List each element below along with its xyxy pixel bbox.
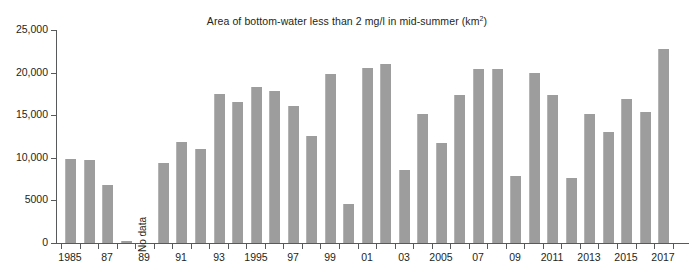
x-axis-tick — [506, 244, 507, 249]
bar-1991[interactable] — [176, 142, 187, 243]
bar-2010[interactable] — [529, 73, 540, 243]
x-axis-tick — [61, 244, 62, 249]
x-axis-tick — [450, 244, 451, 249]
bar-1987[interactable] — [102, 185, 113, 243]
x-axis-tick-label-1997: 97 — [287, 251, 299, 263]
bar-1992[interactable] — [195, 149, 206, 243]
bar-2013[interactable] — [584, 114, 595, 244]
bar-2003[interactable] — [399, 170, 410, 243]
x-axis-tick — [265, 244, 266, 249]
x-axis-tick-label-2011: 2011 — [541, 251, 564, 263]
bar-1999[interactable] — [325, 74, 336, 243]
bar-chart-figure: Area of bottom-water less than 2 mg/l in… — [0, 0, 694, 273]
x-axis-tick — [636, 244, 637, 249]
plot-area — [57, 30, 689, 243]
bar-2017[interactable] — [658, 49, 669, 243]
bar-2008[interactable] — [492, 69, 503, 243]
x-axis-tick — [376, 244, 377, 249]
x-axis-tick — [617, 244, 618, 249]
y-axis-tick-label: 20,000 — [2, 66, 48, 78]
bar-2015[interactable] — [621, 99, 632, 243]
chart-title: Area of bottom-water less than 2 mg/l in… — [0, 15, 694, 27]
x-axis-tick — [172, 244, 173, 249]
bar-2004[interactable] — [417, 114, 428, 243]
x-axis-tick — [432, 244, 433, 249]
bar-2011[interactable] — [547, 95, 558, 243]
x-axis-tick — [98, 244, 99, 249]
bar-2000[interactable] — [343, 204, 354, 243]
x-axis-tick — [561, 244, 562, 249]
bar-2006[interactable] — [454, 95, 465, 243]
bar-1994[interactable] — [232, 102, 243, 243]
x-axis-tick — [358, 244, 359, 249]
y-axis-tick-label: 5000 — [2, 193, 48, 205]
x-axis-tick-label-2005: 2005 — [429, 251, 452, 263]
no-data-annotation: No data — [137, 217, 148, 252]
bar-1996[interactable] — [269, 91, 280, 244]
bar-1985[interactable] — [65, 159, 76, 243]
x-axis-tick-label-2003: 03 — [398, 251, 410, 263]
bar-1986[interactable] — [84, 160, 95, 243]
x-axis-tick — [246, 244, 247, 249]
bar-2016[interactable] — [640, 112, 651, 243]
y-axis-tick-label: 15,000 — [2, 108, 48, 120]
y-axis-tick-label: 10,000 — [2, 151, 48, 163]
x-axis-tick — [673, 244, 674, 249]
x-axis-tick — [543, 244, 544, 249]
bar-2009[interactable] — [510, 176, 521, 243]
x-axis-tick — [339, 244, 340, 249]
x-axis-tick — [469, 244, 470, 249]
x-axis-tick — [320, 244, 321, 249]
x-axis-tick-label-2001: 01 — [361, 251, 373, 263]
x-axis-tick — [598, 244, 599, 249]
x-axis-tick — [228, 244, 229, 249]
x-axis-tick — [413, 244, 414, 249]
x-axis-tick-label-1993: 93 — [213, 251, 225, 263]
y-axis-tick-label: 0 — [2, 236, 48, 248]
x-axis-tick — [191, 244, 192, 249]
bar-2005[interactable] — [436, 143, 447, 243]
x-axis-tick-label-1991: 91 — [175, 251, 187, 263]
x-axis-tick — [580, 244, 581, 249]
x-axis-tick-label-1987: 87 — [101, 251, 113, 263]
x-axis-tick — [117, 244, 118, 249]
x-axis-tick-label-2017: 2017 — [651, 251, 674, 263]
chart-title-tail: ) — [484, 15, 488, 27]
bar-2001[interactable] — [362, 68, 373, 244]
bar-1990[interactable] — [158, 163, 169, 243]
x-axis-tick — [302, 244, 303, 249]
bar-1998[interactable] — [306, 136, 317, 243]
bar-2014[interactable] — [603, 132, 614, 243]
chart-title-main: Area of bottom-water less than 2 mg/l in… — [207, 15, 480, 27]
x-axis-tick — [654, 244, 655, 249]
x-axis-tick — [283, 244, 284, 249]
x-axis-tick-label-2013: 2013 — [577, 251, 600, 263]
x-axis-tick-label-1995: 1995 — [244, 251, 267, 263]
bar-1993[interactable] — [214, 94, 225, 243]
bar-1988[interactable] — [121, 241, 132, 243]
x-axis-tick — [487, 244, 488, 249]
x-axis-tick — [154, 244, 155, 249]
bar-1995[interactable] — [251, 87, 262, 243]
x-axis-tick-label-1989: 89 — [138, 251, 150, 263]
x-axis-tick — [524, 244, 525, 249]
x-axis-tick — [209, 244, 210, 249]
bar-1997[interactable] — [288, 106, 299, 243]
x-axis-line — [56, 243, 689, 244]
x-axis-tick-label-1985: 1985 — [58, 251, 81, 263]
x-axis-tick-label-1999: 99 — [324, 251, 336, 263]
x-axis-tick-label-2009: 09 — [509, 251, 521, 263]
bar-2007[interactable] — [473, 69, 484, 243]
y-axis-tick-label: 25,000 — [2, 23, 48, 35]
bar-2002[interactable] — [380, 64, 391, 243]
bar-2012[interactable] — [566, 178, 577, 243]
y-axis-labels: 25,00020,00015,00010,00050000 — [0, 0, 48, 273]
x-axis-tick — [395, 244, 396, 249]
x-axis-tick-label-2007: 07 — [472, 251, 484, 263]
x-axis-tick-label-2015: 2015 — [614, 251, 637, 263]
x-axis-tick — [135, 244, 136, 249]
x-axis-tick — [80, 244, 81, 249]
